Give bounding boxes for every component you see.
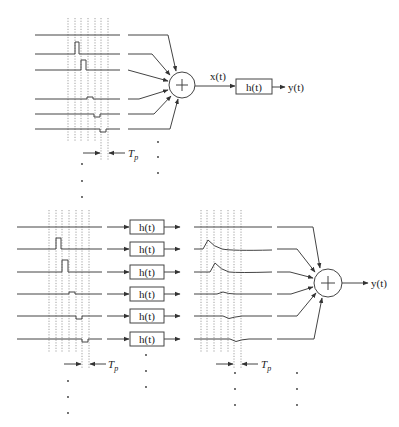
top-pulse-trains: [35, 35, 120, 132]
filter-label: h(t): [139, 310, 155, 323]
bottom-pulse-trains: [17, 227, 102, 342]
top-period-marker: Tp: [83, 147, 138, 162]
filter-row-3: h(t): [107, 265, 180, 279]
filter-row-4: h(t): [107, 287, 180, 301]
filter-label: h(t): [139, 243, 155, 256]
top-filter-label: h(t): [246, 81, 262, 94]
bottom-diagram: h(t) h(t) h(t) h(t): [17, 210, 387, 414]
filter-row-1: h(t): [107, 220, 180, 234]
filter-row-5: h(t): [107, 309, 180, 323]
filter-label: h(t): [139, 221, 155, 234]
filter-row-6: h(t): [107, 332, 180, 346]
top-summer: [169, 72, 195, 98]
top-time-grid: [68, 18, 108, 160]
top-ellipsis: [81, 141, 159, 198]
bottom-output-label: y(t): [371, 277, 387, 290]
filter-label: h(t): [139, 333, 155, 346]
bottom-right-period-marker: Tp: [216, 358, 271, 373]
top-diagram: x(t) h(t) y(t) Tp: [35, 18, 304, 198]
filter-label: h(t): [139, 266, 155, 279]
svg-text:Tp: Tp: [108, 358, 118, 373]
diagram-canvas: x(t) h(t) y(t) Tp: [0, 0, 399, 427]
bottom-left-period-marker: Tp: [64, 358, 118, 373]
bottom-summer: [314, 269, 342, 297]
filter-label: h(t): [139, 288, 155, 301]
filtered-responses: [194, 227, 272, 342]
bottom-left-time-grid: [49, 210, 89, 368]
filter-bank: h(t) h(t) h(t) h(t): [107, 220, 180, 346]
top-input-label: x(t): [210, 70, 226, 83]
top-filter-box: h(t): [236, 79, 272, 94]
filter-row-2: h(t): [107, 242, 180, 256]
top-output-label: y(t): [288, 81, 304, 94]
top-period-label: Tp: [128, 147, 138, 162]
svg-text:Tp: Tp: [261, 358, 271, 373]
bottom-right-time-grid: [201, 210, 241, 368]
